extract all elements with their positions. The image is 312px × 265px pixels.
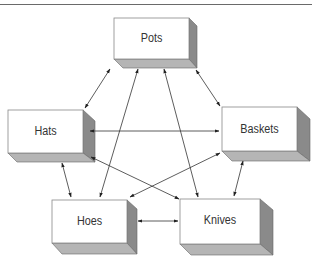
edge-hats-knives (91, 157, 179, 199)
node-label-hats: Hats (12, 124, 80, 138)
edge-pots-hoes (100, 69, 138, 197)
edge-pots-hats (85, 69, 110, 108)
node-label-knives: Knives (184, 213, 256, 227)
node-knives (180, 199, 273, 255)
edge-baskets-knives (234, 161, 243, 196)
edge-hats-hoes (62, 163, 71, 197)
edge-pots-baskets (196, 70, 220, 106)
node-label-baskets: Baskets (226, 122, 294, 136)
node-label-pots: Pots (118, 31, 186, 45)
edge-baskets-hoes (130, 153, 220, 197)
node-label-hoes: Hoes (56, 214, 124, 228)
